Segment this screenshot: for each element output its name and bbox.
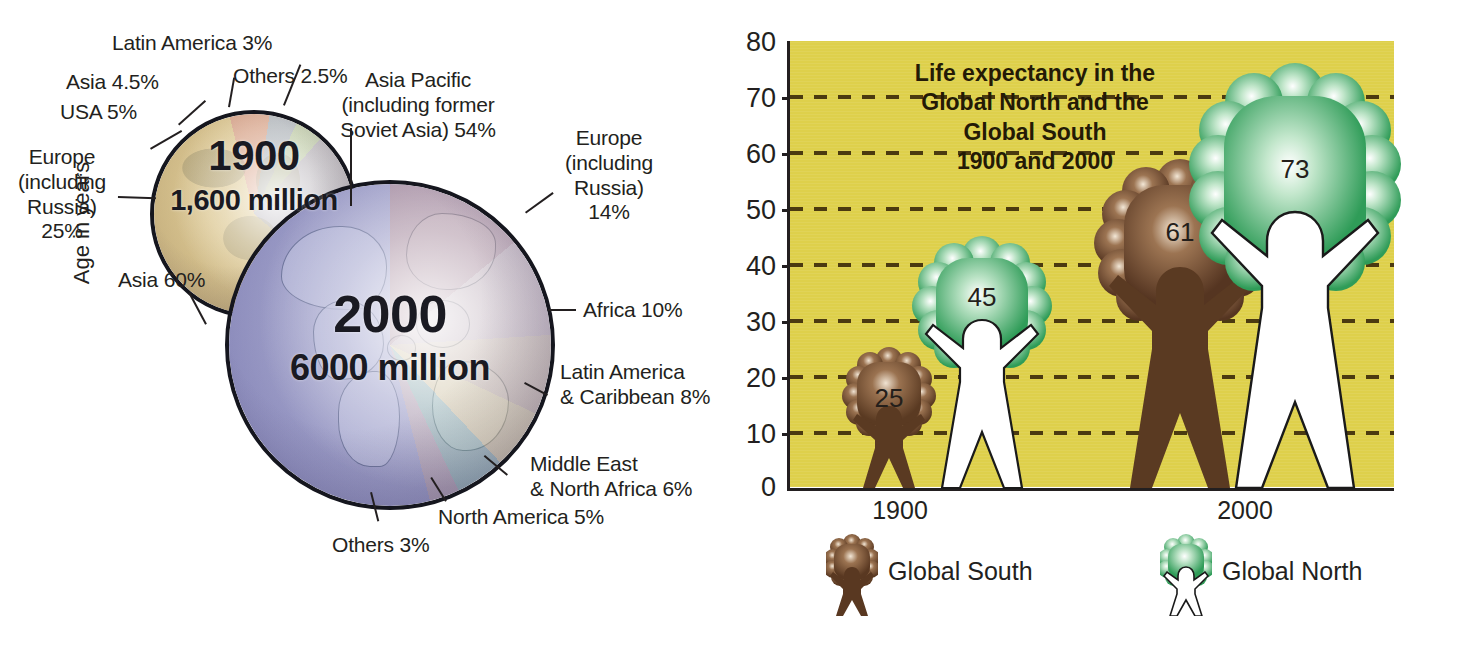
x-axis	[787, 488, 1394, 491]
infographic-page: 1900 1,600 million 2000 6000 million	[0, 0, 1463, 653]
legend-label-global-north: Global North	[1222, 557, 1362, 586]
bar-global-north-2000[interactable]: 73	[1200, 60, 1390, 488]
y-tick-30: 30	[724, 307, 776, 338]
legend-label-global-south: Global South	[888, 557, 1033, 586]
leader-asia45-1900	[178, 100, 206, 125]
callout-others-2000: Others 3%	[332, 533, 429, 558]
legend-swatch-global-north[interactable]	[1160, 532, 1212, 616]
callout-africa-2000: Africa 10%	[583, 298, 683, 323]
callout-usa-1900: USA 5%	[60, 100, 137, 125]
y-tick-40: 40	[724, 251, 776, 282]
legend-swatch-global-south[interactable]	[826, 532, 878, 616]
leader-europe-1900	[118, 196, 156, 199]
y-tick-20: 20	[724, 363, 776, 394]
globe-2000-population: 6000 million	[229, 347, 551, 389]
callout-asia-45-1900: Asia 4.5%	[66, 70, 159, 95]
callout-north-america-2000: North America 5%	[438, 505, 604, 530]
callout-asia-60-1900: Asia 60%	[118, 268, 205, 293]
x-tick-1900: 1900	[840, 496, 960, 525]
y-axis-title: Age in years	[69, 123, 95, 323]
y-tick-0: 0	[724, 472, 776, 503]
callout-middle-east-north-africa-2000: Middle East & North Africa 6%	[530, 452, 692, 502]
globe-2000-year: 2000	[229, 284, 551, 344]
y-tick-10: 10	[724, 419, 776, 450]
bar-global-north-1900[interactable]: 45	[918, 232, 1046, 488]
y-tick-80: 80	[724, 27, 776, 58]
leader-africa-2000	[548, 309, 576, 311]
callout-latin-america-caribbean-2000: Latin America & Caribbean 8%	[560, 360, 710, 410]
x-tick-2000: 2000	[1185, 496, 1305, 525]
callout-europe-2000: Europe (including Russia) 14%	[556, 126, 662, 225]
callout-latin-america-1900: Latin America 3%	[112, 31, 272, 56]
y-tick-60: 60	[724, 139, 776, 170]
callout-europe-1900: Europe (including Russia) 25%	[6, 145, 118, 244]
value-label-global-north-1900: 45	[918, 282, 1046, 313]
y-tick-70: 70	[724, 83, 776, 114]
chart-title: Life expectancy in the Global North and …	[850, 59, 1220, 177]
value-label-global-north-2000: 73	[1200, 154, 1390, 185]
plot-area: Life expectancy in the Global North and …	[790, 41, 1394, 487]
y-tick-50: 50	[724, 195, 776, 226]
globe-1900-population: 1,600 million	[154, 184, 354, 217]
globe-1900-year: 1900	[154, 132, 354, 180]
globe-2000: 2000 6000 million	[225, 180, 555, 510]
leader-europe-2000	[525, 192, 553, 213]
globe-2000-shading	[229, 184, 551, 506]
